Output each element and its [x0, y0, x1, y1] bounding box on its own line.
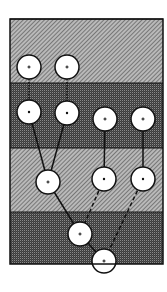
- node-n10: [68, 222, 92, 246]
- node-n1: [17, 55, 41, 79]
- node-n8: [92, 167, 116, 191]
- node-n11: [92, 249, 116, 273]
- node-n3: [17, 100, 41, 124]
- node-n4: [55, 101, 79, 125]
- node-n7: [36, 170, 60, 194]
- node-n6: [131, 107, 155, 131]
- dot-mark-icon: [103, 178, 105, 180]
- dot-mark-icon: [66, 112, 68, 114]
- dot-mark-icon: [142, 178, 144, 180]
- dot-mark-icon: [28, 111, 30, 113]
- node-n2: [55, 55, 79, 79]
- tree-diagram: [0, 0, 167, 292]
- node-n9: [131, 167, 155, 191]
- node-n5: [93, 107, 117, 131]
